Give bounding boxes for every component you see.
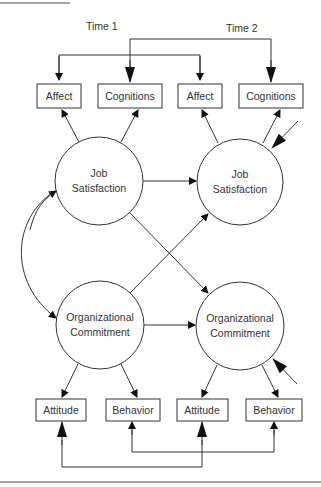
svg-text:Organizational: Organizational [206,312,274,324]
svg-text:Affect: Affect [187,90,214,102]
svg-text:Commitment: Commitment [210,327,270,339]
svg-text:Job: Job [232,168,249,180]
svg-text:Cognitions: Cognitions [246,90,296,102]
construct-job-satisfaction-t2: Job Satisfaction [197,139,283,225]
svg-text:Organizational: Organizational [66,311,134,323]
svg-text:Attitude: Attitude [184,404,220,416]
indicator-attitude-t1: Attitude [36,399,86,421]
indicator-behavior-t1: Behavior [106,399,160,421]
covariance-js1-oc1 [21,191,56,318]
behavior-covariance-connector [132,430,274,452]
path-diagram: Time 1 Time 2 Affect Cognitions Affect C… [0,0,321,487]
indicator-cognitions-t1: Cognitions [98,84,162,108]
svg-text:Behavior: Behavior [112,404,154,416]
svg-text:Affect: Affect [46,90,73,102]
svg-text:Commitment: Commitment [70,326,130,338]
indicator-attitude-t2: Attitude [177,399,228,421]
construct-org-commitment-t2: Organizational Commitment [196,282,284,370]
time2-label: Time 2 [226,22,258,34]
svg-text:Behavior: Behavior [253,404,295,416]
time1-label: Time 1 [86,20,118,32]
construct-job-satisfaction-t1: Job Satisfaction [55,137,143,225]
indicator-cognitions-t2: Cognitions [239,84,303,108]
indicator-affect-t2: Affect [178,84,222,108]
svg-text:Satisfaction: Satisfaction [213,183,267,195]
disturbance-arrow-oc2 [273,359,297,384]
disturbance-arrow-js2 [272,121,298,148]
svg-text:Satisfaction: Satisfaction [72,182,126,194]
svg-text:Job: Job [91,167,108,179]
svg-text:Cognitions: Cognitions [105,90,155,102]
svg-text:Attitude: Attitude [43,404,79,416]
construct-org-commitment-t1: Organizational Commitment [56,281,144,369]
indicator-affect-t1: Affect [37,84,81,108]
indicator-behavior-t2: Behavior [246,399,302,421]
